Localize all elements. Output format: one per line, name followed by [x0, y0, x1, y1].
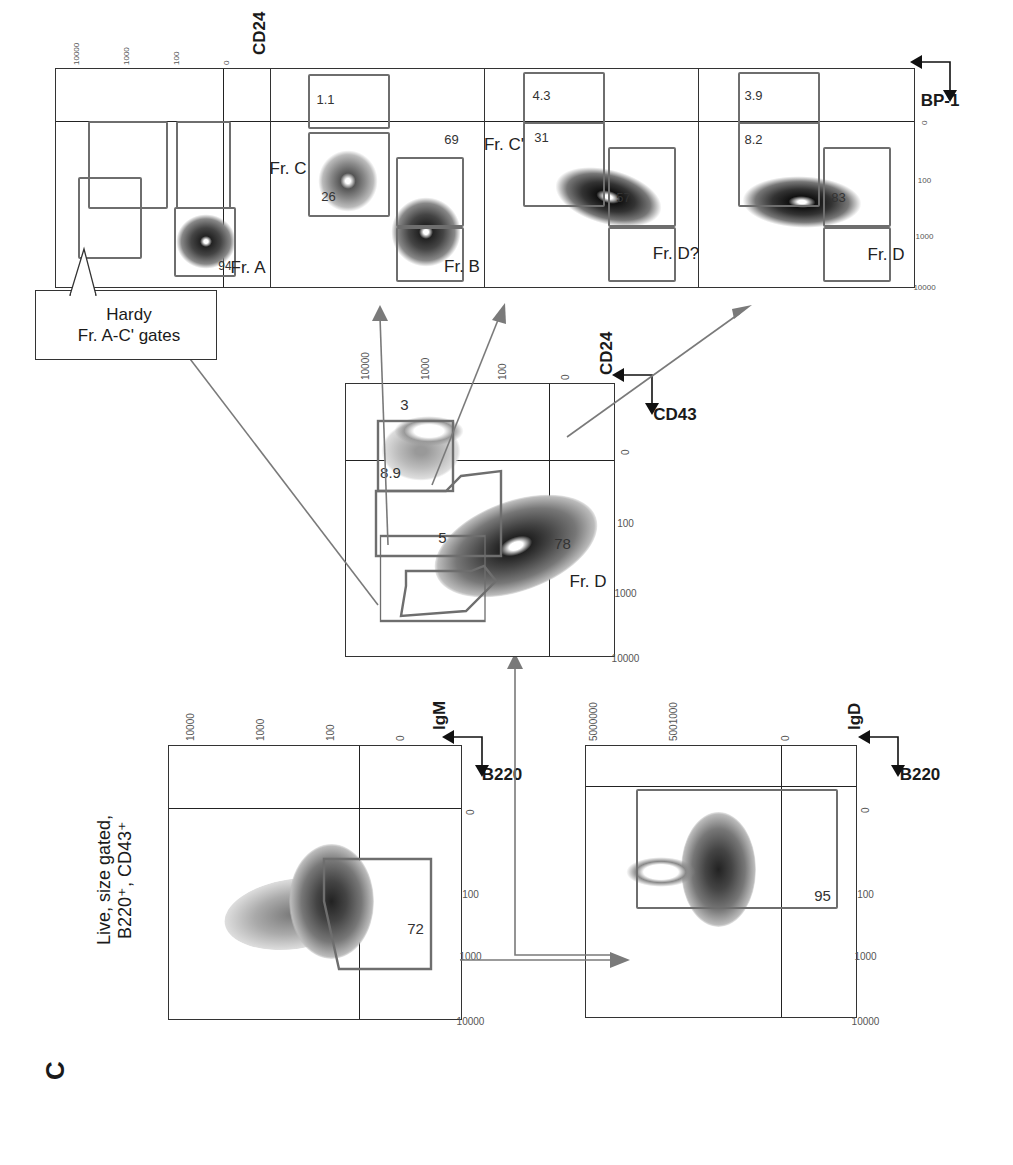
hardy-callout: Hardy Fr. A-C' gates: [35, 290, 217, 360]
x-tick: 10000: [72, 43, 81, 65]
y-tick: 100: [918, 176, 931, 185]
callout-line-1: Hardy: [39, 304, 219, 325]
gate-value: 8.2: [744, 132, 762, 147]
plot-bp1-cd24-strip: 94 Fr. A 1.1 26 69 Fr. C Fr. B 31 4.3 57…: [55, 68, 915, 288]
gate-value: 69: [444, 132, 458, 147]
y-tick: 1000: [916, 232, 934, 241]
x-tick: 1000: [122, 47, 131, 65]
gate-label-fr-dq: Fr. D?: [653, 244, 699, 264]
gate-label-fr-c: Fr. C: [270, 159, 307, 179]
y-tick: 10000: [913, 283, 935, 292]
callout-line-2: Fr. A-C' gates: [39, 325, 219, 346]
callout-pointer: [70, 235, 110, 295]
y-tick: 0: [920, 121, 929, 125]
gate-value: 26: [321, 189, 335, 204]
axis-label-cd24: CD24: [250, 12, 270, 55]
gate-empty: [176, 121, 231, 209]
gate-value: 31: [534, 130, 548, 145]
subpanel-divider: [484, 69, 485, 287]
gate-label-fr-cprime: Fr. C': [484, 135, 524, 155]
gate-value: 57: [616, 190, 630, 205]
figure-stage: C Live, size gated, B220⁺, CD43⁺ 72 1000…: [0, 0, 1013, 1165]
gate-fr-dq: [608, 147, 676, 227]
axis-arrows-icon: [910, 22, 970, 102]
gate-value: 83: [831, 190, 845, 205]
x-tick: 100: [172, 52, 181, 65]
gate-fr-b: [396, 157, 464, 227]
gate-label-fr-b: Fr. B: [444, 257, 480, 277]
gate-value: 4.3: [532, 88, 550, 103]
gate-label-fr-a: Fr. A: [231, 258, 266, 278]
gate-value: 1.1: [316, 92, 334, 107]
gate-fr-d: [823, 147, 891, 227]
gate-label-fr-d: Fr. D: [868, 245, 905, 265]
hardy-callout-text: Hardy Fr. A-C' gates: [39, 304, 219, 346]
x-tick: 0: [222, 61, 231, 65]
gate-value: 3.9: [744, 88, 762, 103]
